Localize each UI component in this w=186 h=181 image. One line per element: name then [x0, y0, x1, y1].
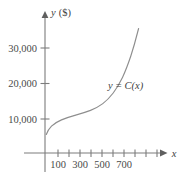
curve-label-function: C(x): [125, 80, 144, 92]
y-axis-title-unit: ($): [59, 7, 72, 19]
x-tick-label-100: 100: [50, 159, 66, 170]
x-axis-tick-labels: 100 300 500 700: [50, 159, 132, 170]
y-tick-label-20000: 20,000: [8, 78, 37, 89]
x-tick-label-300: 300: [72, 159, 88, 170]
cost-function-figure: 100 300 500 700 10,000 20,000 30,000 y($…: [0, 0, 186, 181]
curve-label-y: y: [107, 80, 113, 91]
y-tick-label-30000: 30,000: [8, 43, 37, 54]
x-tick-label-700: 700: [116, 159, 132, 170]
y-tick-label-10000: 10,000: [8, 114, 37, 125]
x-axis-title: x: [171, 148, 177, 159]
y-axis-arrowhead: [42, 11, 49, 18]
x-axis-arrowhead: [160, 150, 168, 157]
x-tick-label-500: 500: [94, 159, 110, 170]
curve-label-operator: =: [116, 80, 122, 91]
y-axis-tick-labels: 10,000 20,000 30,000: [8, 43, 37, 125]
curve-label: y=C(x): [107, 80, 144, 92]
y-axis-title-variable: y: [50, 7, 56, 18]
y-axis-title: y($): [50, 7, 71, 19]
y-axis-group: [42, 11, 49, 172]
chart-canvas: 100 300 500 700 10,000 20,000 30,000 y($…: [0, 0, 186, 181]
